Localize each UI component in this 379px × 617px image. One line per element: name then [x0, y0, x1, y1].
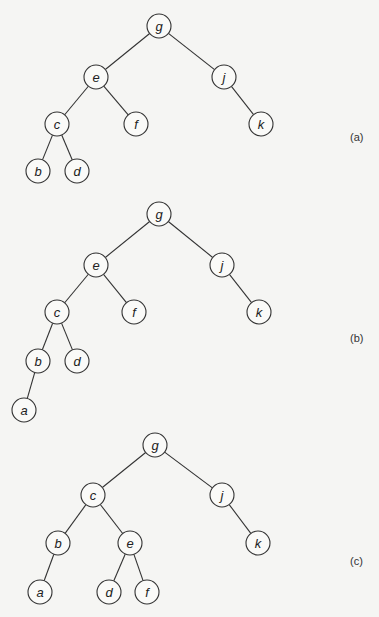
tree-node-d: d [65, 349, 89, 373]
tree-node-c: c [45, 300, 69, 324]
node-label: g [151, 438, 159, 453]
tree-node-k: k [249, 112, 273, 136]
edge-c-d [62, 135, 73, 160]
tree-node-d: d [65, 159, 89, 183]
node-label: c [90, 488, 97, 503]
tree-diagram-svg: gejcfkbdgejcfkbdagcjbekadf [0, 0, 379, 617]
panel-label-c: (c) [350, 555, 363, 567]
tree-panel-c: gcjbekadf [28, 433, 270, 604]
edge-e-f [134, 554, 143, 580]
tree-node-k: k [246, 531, 270, 555]
node-label: e [126, 536, 133, 551]
edge-c-e [100, 505, 122, 534]
tree-node-g: g [147, 14, 171, 38]
node-label: d [73, 164, 81, 179]
node-label: a [36, 585, 43, 600]
node-label: c [54, 117, 61, 132]
node-label: d [105, 585, 113, 600]
node-label: e [92, 258, 99, 273]
tree-node-f: f [135, 580, 159, 604]
edge-e-c [65, 274, 89, 303]
tree-node-k: k [247, 300, 271, 324]
tree-node-d: d [97, 580, 121, 604]
edge-g-j [165, 452, 213, 488]
edge-g-j [168, 222, 212, 258]
panel-label-a: (a) [350, 131, 363, 143]
tree-node-g: g [147, 202, 171, 226]
node-label: a [20, 403, 27, 418]
tree-node-b: b [26, 159, 50, 183]
tree-node-b: b [46, 531, 70, 555]
tree-node-j: j [210, 253, 234, 277]
node-label: b [54, 536, 61, 551]
edge-c-d [62, 323, 73, 350]
edge-b-a [27, 373, 34, 399]
tree-panel-a: gejcfkbd [26, 14, 273, 183]
edge-g-e [105, 222, 149, 258]
edge-j-k [231, 86, 253, 114]
tree-node-c: c [45, 112, 69, 136]
node-label: d [73, 354, 81, 369]
node-label: g [155, 19, 163, 34]
edge-g-j [168, 33, 214, 69]
tree-node-c: c [81, 483, 105, 507]
edge-b-a [44, 554, 54, 580]
tree-panel-b: gejcfkbda [12, 202, 271, 422]
edge-g-e [105, 34, 149, 70]
tree-diagram-canvas: gejcfkbdgejcfkbdagcjbekadf (a) (b) (c) [0, 0, 379, 617]
edge-c-b [65, 505, 86, 534]
node-label: g [155, 207, 163, 222]
tree-node-f: f [122, 300, 146, 324]
tree-node-j: j [210, 483, 234, 507]
node-label: e [92, 70, 99, 85]
edge-e-f [104, 274, 127, 302]
node-label: b [34, 164, 41, 179]
edge-j-k [229, 274, 251, 302]
tree-node-e: e [84, 253, 108, 277]
tree-node-j: j [212, 65, 236, 89]
tree-node-b: b [26, 349, 50, 373]
node-label: c [54, 305, 61, 320]
panel-label-b: (b) [350, 332, 363, 344]
tree-node-a: a [28, 580, 52, 604]
tree-node-e: e [84, 65, 108, 89]
tree-node-g: g [143, 433, 167, 457]
tree-node-e: e [118, 531, 142, 555]
edge-g-c [102, 453, 145, 488]
edge-c-b [42, 323, 52, 350]
edge-e-c [65, 86, 89, 115]
node-label: b [34, 354, 41, 369]
edge-e-d [114, 554, 126, 581]
tree-node-f: f [124, 112, 148, 136]
edge-e-f [104, 86, 128, 115]
tree-node-a: a [12, 398, 36, 422]
edge-c-b [42, 135, 52, 160]
edge-j-k [229, 505, 251, 534]
